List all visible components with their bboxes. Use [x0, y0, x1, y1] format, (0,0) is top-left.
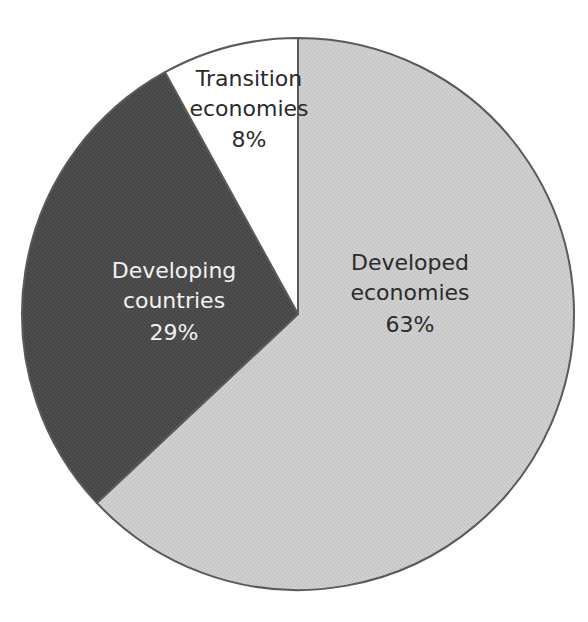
label-developing-line2: countries	[123, 288, 225, 313]
label-transition-line2: economies	[189, 96, 308, 121]
label-developed-line2: economies	[350, 280, 469, 305]
pie-chart-canvas: Developed economies 63% Developing count…	[0, 0, 588, 622]
label-transition-line1: Transition	[195, 66, 302, 91]
label-transition-value: 8%	[232, 127, 267, 152]
label-developed-value: 63%	[386, 312, 435, 337]
label-developed-line1: Developed	[351, 250, 469, 275]
label-developing-line1: Developing	[112, 258, 237, 283]
label-developing-value: 29%	[150, 320, 199, 345]
pie-chart-figure: Developed economies 63% Developing count…	[0, 0, 588, 622]
